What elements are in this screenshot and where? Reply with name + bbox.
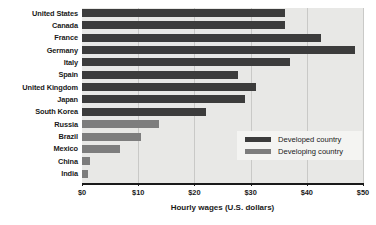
x-axis-line	[82, 183, 363, 185]
bar-russia	[82, 120, 159, 128]
bar-japan	[82, 95, 245, 103]
bar-italy	[82, 58, 290, 66]
x-axis-title: Hourly wages (U.S. dollars)	[82, 203, 363, 212]
category-label: Spain	[0, 71, 78, 79]
x-tick-label: $50	[357, 188, 369, 197]
x-tick-mark	[251, 183, 252, 186]
bar-france	[82, 34, 321, 42]
bar-germany	[82, 46, 355, 54]
category-label: Canada	[0, 22, 78, 30]
category-label: France	[0, 34, 78, 42]
legend-swatch-developing-icon	[245, 149, 271, 154]
x-tick-label: $20	[188, 188, 200, 197]
category-label: Russia	[0, 121, 78, 129]
bar-china	[82, 157, 90, 165]
bar-chart: United StatesCanadaFranceGermanyItalySpa…	[0, 0, 376, 225]
category-label: India	[0, 170, 78, 178]
category-label: Japan	[0, 96, 78, 104]
bar-brazil	[82, 133, 141, 141]
legend-label-developing: Developing country	[278, 147, 343, 156]
gridline	[363, 8, 364, 183]
category-label: Germany	[0, 47, 78, 55]
category-label: Italy	[0, 59, 78, 67]
category-label: United Kingdom	[0, 84, 78, 92]
legend-item-developed: Developed country	[245, 133, 341, 145]
category-label: Brazil	[0, 133, 78, 141]
legend-item-developing: Developing country	[245, 145, 343, 157]
legend-swatch-developed-icon	[245, 137, 271, 142]
chart-legend: Developed country Developing country	[237, 131, 362, 160]
category-axis: United StatesCanadaFranceGermanyItalySpa…	[0, 9, 78, 182]
x-tick-label: $30	[244, 188, 256, 197]
category-label: China	[0, 158, 78, 166]
x-tick-mark	[82, 183, 83, 186]
x-tick-mark	[138, 183, 139, 186]
legend-label-developed: Developed country	[278, 135, 341, 144]
category-label: Mexico	[0, 145, 78, 153]
category-label: South Korea	[0, 108, 78, 116]
x-tick-label: $10	[132, 188, 144, 197]
x-tick-label: $0	[78, 188, 86, 197]
bar-canada	[82, 21, 285, 29]
x-tick-label: $40	[301, 188, 313, 197]
bar-united-kingdom	[82, 83, 256, 91]
bar-south-korea	[82, 108, 206, 116]
category-label: United States	[0, 10, 78, 18]
x-tick-mark	[194, 183, 195, 186]
bar-spain	[82, 71, 238, 79]
x-tick-mark	[307, 183, 308, 186]
x-tick-mark	[363, 183, 364, 186]
bar-india	[82, 170, 88, 178]
bar-mexico	[82, 145, 120, 153]
bar-united-states	[82, 9, 285, 17]
